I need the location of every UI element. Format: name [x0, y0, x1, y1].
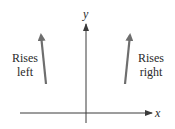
- rises-right-label-line2: right: [140, 65, 163, 79]
- rises-left-label-line1: Rises: [12, 51, 38, 65]
- rises-right-arrow-icon: [125, 35, 130, 84]
- rises-right-label-line1: Rises: [138, 51, 164, 65]
- y-axis-label: y: [82, 7, 89, 21]
- x-axis-label: x: [154, 106, 161, 120]
- rises-left-label-line2: left: [17, 65, 34, 79]
- end-behavior-diagram: x y Rises left Rises right: [0, 0, 175, 129]
- rises-left-arrow-icon: [41, 35, 46, 84]
